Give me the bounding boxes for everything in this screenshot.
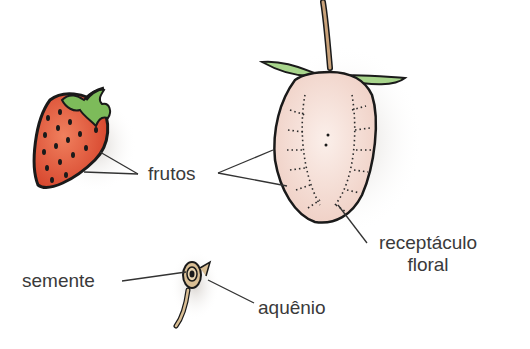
strawberry-cross-section-icon <box>262 2 423 235</box>
achene-icon <box>170 250 220 326</box>
label-aquenio: aquênio <box>258 297 326 319</box>
label-semente: semente <box>22 270 95 292</box>
label-floral: floral <box>373 254 483 276</box>
strawberry-diagram: frutos receptáculo floral semente aquêni… <box>0 0 530 349</box>
label-receptaculo: receptáculo <box>373 232 483 254</box>
whole-strawberry-icon <box>34 88 137 193</box>
label-frutos: frutos <box>148 163 196 185</box>
label-receptaculo-floral: receptáculo floral <box>373 232 483 276</box>
